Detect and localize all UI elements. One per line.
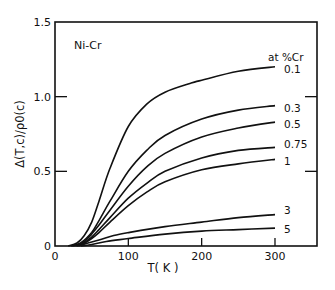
y-tick-label: 0.5: [34, 165, 52, 178]
y-tick-label: 0: [44, 240, 51, 253]
x-tick-label: 200: [191, 250, 212, 263]
y-tick-label: 1.0: [34, 91, 52, 104]
curve-label: 5: [284, 223, 291, 235]
curve-label: 0.3: [284, 102, 301, 114]
curve-label: 0.1: [284, 63, 301, 75]
y-tick-label: 1.5: [34, 16, 52, 29]
x-tick-label: 0: [52, 250, 59, 263]
data-curves: [68, 67, 275, 246]
y-axis-label: Δ(T,c)/ρ0(c): [13, 100, 27, 168]
curve-labels: 0.10.30.50.75135: [284, 63, 307, 235]
x-tick-label: 100: [118, 250, 139, 263]
curve-label: 0.5: [284, 118, 301, 130]
x-tick-label: 300: [264, 250, 285, 263]
curve-label: 3: [284, 204, 291, 216]
curve-label: 1: [284, 155, 291, 167]
legend-title: at %Cr: [268, 51, 304, 63]
alloy-annotation: Ni-Cr: [74, 39, 102, 52]
curve-label: 0.75: [284, 138, 307, 150]
chart: 00.51.01.50100200300 0.10.30.50.75135 Ni…: [0, 0, 335, 290]
x-axis-label: T( K ): [147, 261, 179, 275]
